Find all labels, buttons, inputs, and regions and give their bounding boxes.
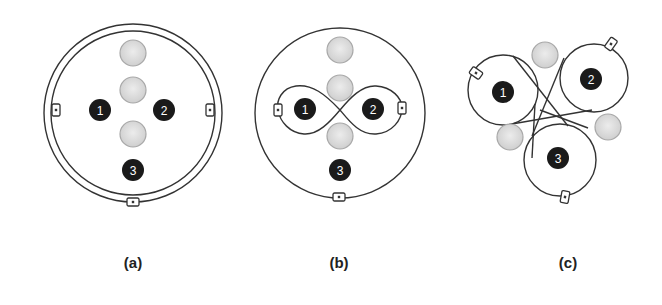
gray-circle bbox=[120, 40, 146, 66]
caption-a: (a) bbox=[124, 254, 142, 271]
node-3: 3 bbox=[329, 159, 351, 181]
belt-line bbox=[512, 110, 592, 124]
node-label: 3 bbox=[555, 152, 562, 166]
connector-block bbox=[52, 104, 60, 116]
node-label: 2 bbox=[370, 103, 377, 117]
connector-block bbox=[274, 104, 282, 116]
connector-block bbox=[333, 193, 345, 201]
gray-circles bbox=[120, 40, 146, 147]
connector-block bbox=[604, 37, 617, 51]
connector-block bbox=[127, 198, 139, 206]
connectors bbox=[274, 102, 406, 201]
node-label: 2 bbox=[588, 73, 595, 87]
gray-circle bbox=[327, 75, 353, 101]
node-3: 3 bbox=[547, 147, 569, 169]
node-2: 2 bbox=[362, 98, 384, 120]
node-label: 3 bbox=[130, 164, 137, 178]
node-label: 1 bbox=[500, 86, 507, 100]
connector-block bbox=[206, 104, 214, 116]
node-label: 2 bbox=[161, 104, 168, 118]
panel-c: 123 bbox=[468, 37, 628, 204]
node-1: 1 bbox=[89, 99, 111, 121]
gray-circle bbox=[120, 121, 146, 147]
gray-circle bbox=[327, 123, 353, 149]
caption-c: (c) bbox=[559, 254, 577, 271]
node-2: 2 bbox=[580, 68, 602, 90]
connector-block bbox=[560, 190, 570, 203]
panel-a: 123 bbox=[44, 24, 222, 206]
node-1: 1 bbox=[294, 98, 316, 120]
panel-b: 123 bbox=[255, 28, 425, 201]
gray-circle bbox=[120, 77, 146, 103]
connectors bbox=[52, 104, 214, 206]
connector-block bbox=[398, 102, 406, 114]
node-label: 1 bbox=[97, 104, 104, 118]
node-label: 1 bbox=[302, 103, 309, 117]
gray-circle bbox=[532, 42, 558, 68]
node-label: 3 bbox=[337, 164, 344, 178]
gray-circle bbox=[595, 114, 621, 140]
node-1: 1 bbox=[492, 81, 514, 103]
gray-circles bbox=[327, 37, 353, 149]
caption-b: (b) bbox=[329, 254, 348, 271]
node-2: 2 bbox=[153, 99, 175, 121]
belt-line bbox=[540, 110, 588, 128]
gray-circle bbox=[497, 124, 523, 150]
gray-circle bbox=[327, 37, 353, 63]
node-3: 3 bbox=[122, 159, 144, 181]
